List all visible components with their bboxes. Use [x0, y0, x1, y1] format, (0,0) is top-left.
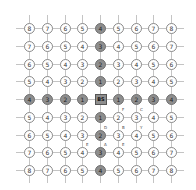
grid-node: 6 — [131, 165, 142, 176]
grid-node: 5 — [131, 41, 142, 52]
grid-node: 3 — [113, 130, 124, 141]
grid-node: 3 — [131, 76, 142, 87]
grid-node: 2 — [60, 94, 71, 105]
grid-node: 5 — [148, 130, 159, 141]
grid-node: 4 — [148, 112, 159, 123]
grid-node: 7 — [42, 23, 53, 34]
node-tag-label: B — [122, 126, 125, 130]
grid-node: 4 — [113, 41, 124, 52]
grid-node: 2 — [95, 59, 106, 70]
grid-node: 7 — [166, 41, 177, 52]
grid-node: 3 — [77, 130, 88, 141]
grid-node: 4 — [77, 41, 88, 52]
grid-node: 8 — [24, 23, 35, 34]
grid-node: 3 — [60, 112, 71, 123]
grid-node: 4 — [131, 59, 142, 70]
grid-node: 6 — [60, 165, 71, 176]
grid-node: 6 — [42, 41, 53, 52]
grid-node: 7 — [166, 147, 177, 158]
grid-node: 2 — [131, 94, 142, 105]
grid-node: 4 — [113, 147, 124, 158]
grid-node: 4 — [95, 165, 106, 176]
grid-node: 8 — [166, 23, 177, 34]
grid-node: 7 — [24, 41, 35, 52]
grid-node: 8 — [24, 165, 35, 176]
grid-node: 3 — [77, 59, 88, 70]
grid-node: 2 — [113, 112, 124, 123]
node-tag-label: E — [122, 143, 125, 147]
grid-node: 5 — [42, 130, 53, 141]
grid-node: 5 — [42, 59, 53, 70]
grid-node: 1 — [95, 112, 106, 123]
grid-node: 5 — [113, 165, 124, 176]
grid-node: 2 — [77, 112, 88, 123]
grid-node: 4 — [42, 112, 53, 123]
grid-node: 3 — [131, 112, 142, 123]
grid-node: 7 — [148, 23, 159, 34]
grid-node: 6 — [148, 41, 159, 52]
node-tag-label: Y — [140, 126, 142, 130]
base-station-node: BS — [95, 94, 107, 105]
grid-node: 4 — [60, 59, 71, 70]
grid-node: 3 — [148, 94, 159, 105]
node-tag-label: E — [86, 143, 89, 147]
grid-node: 3 — [60, 76, 71, 87]
grid-node: 6 — [24, 59, 35, 70]
grid-node: 7 — [148, 165, 159, 176]
grid-node: 5 — [166, 76, 177, 87]
grid-node: 3 — [95, 147, 106, 158]
grid-node: 4 — [95, 23, 106, 34]
grid-node: 3 — [95, 41, 106, 52]
grid-node: 5 — [148, 59, 159, 70]
node-tag-label: D — [104, 126, 107, 130]
grid-node: 6 — [60, 23, 71, 34]
grid-node: 5 — [77, 165, 88, 176]
grid-node: 7 — [42, 165, 53, 176]
grid-node: 5 — [131, 147, 142, 158]
grid-node: 4 — [24, 94, 35, 105]
grid-node: 6 — [131, 23, 142, 34]
grid-node: 4 — [148, 76, 159, 87]
grid-node: 3 — [113, 59, 124, 70]
grid-node: 1 — [77, 94, 88, 105]
grid-node: 2 — [95, 130, 106, 141]
grid-node: 5 — [77, 23, 88, 34]
grid-node: 5 — [24, 112, 35, 123]
node-tag-label: A — [104, 143, 107, 147]
grid-node: 6 — [148, 147, 159, 158]
grid-node: 5 — [113, 23, 124, 34]
grid-node: 4 — [60, 130, 71, 141]
grid-node: 4 — [42, 76, 53, 87]
grid-node: 4 — [77, 147, 88, 158]
grid-node: 8 — [166, 165, 177, 176]
grid-node: 3 — [42, 94, 53, 105]
grid-node: 2 — [77, 76, 88, 87]
grid-network-diagram: 8765456787654345676543234565432123454321… — [0, 0, 196, 190]
grid-node: 1 — [113, 94, 124, 105]
grid-node: 6 — [24, 130, 35, 141]
grid-node: 2 — [113, 76, 124, 87]
grid-node: 1 — [95, 76, 106, 87]
grid-node: 5 — [166, 112, 177, 123]
grid-node: 4 — [131, 130, 142, 141]
grid-node: 6 — [42, 147, 53, 158]
node-tag-label: F — [122, 108, 124, 112]
grid-node: 6 — [166, 130, 177, 141]
grid-node: 5 — [24, 76, 35, 87]
grid-node: 7 — [24, 147, 35, 158]
grid-node: 6 — [166, 59, 177, 70]
grid-node: 5 — [60, 41, 71, 52]
grid-node: 4 — [166, 94, 177, 105]
grid-node: 5 — [60, 147, 71, 158]
node-tag-label: C — [140, 108, 143, 112]
